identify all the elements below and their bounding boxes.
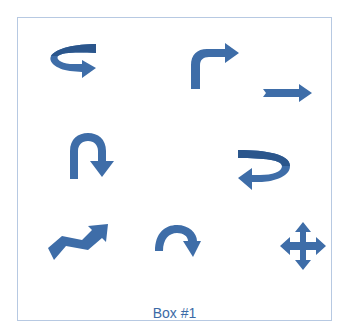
circular-clockwise-arrow-icon [153, 223, 203, 261]
u-turn-down-arrow-icon [68, 131, 120, 181]
curved-left-arrow-icon [236, 146, 294, 194]
straight-right-arrow-icon [263, 84, 315, 102]
box-label: Box #1 [18, 305, 331, 321]
zigzag-up-right-arrow-icon [48, 224, 110, 266]
curved-right-arrow-icon [48, 42, 103, 92]
arrow-box: Box #1 [17, 17, 332, 321]
bent-up-right-arrow-icon [189, 43, 244, 93]
four-way-move-arrow-icon [278, 222, 328, 270]
